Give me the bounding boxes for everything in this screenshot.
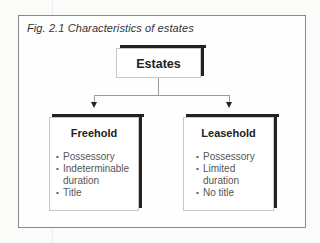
leasehold-list: •Possessory •Limitedduration •No title <box>196 151 255 199</box>
figure-title: Fig. 2.1 Characteristics of estates <box>27 22 194 34</box>
freehold-node: Freehold •Possessory •Indeterminabledura… <box>49 117 139 211</box>
bullet-icon: • <box>196 163 199 175</box>
node-shadow-top <box>186 114 279 117</box>
list-item: •Possessory <box>56 151 129 163</box>
node-shadow-top <box>120 45 206 48</box>
bullet-icon: • <box>196 187 199 199</box>
list-item: •No title <box>196 187 255 199</box>
list-item: •Indeterminableduration <box>56 163 129 187</box>
list-item: •Possessory <box>196 151 255 163</box>
connector-stem <box>158 78 159 95</box>
arrow-down-icon <box>226 102 232 108</box>
estates-label: Estates <box>117 57 200 71</box>
estates-node: Estates <box>116 48 201 78</box>
list-item: •Limitedduration <box>196 163 255 187</box>
arrow-down-icon <box>91 102 97 108</box>
connector-bar <box>94 95 230 96</box>
bullet-icon: • <box>56 163 59 175</box>
leasehold-node: Leasehold •Possessory •Limitedduration •… <box>183 117 274 211</box>
freehold-title: Freehold <box>50 127 138 139</box>
node-shadow-right <box>201 45 204 76</box>
bullet-icon: • <box>56 187 59 199</box>
freehold-list: •Possessory •Indeterminableduration •Tit… <box>56 151 129 199</box>
list-item: •Title <box>56 187 129 199</box>
node-shadow-top <box>52 114 144 117</box>
leasehold-title: Leasehold <box>184 127 273 139</box>
bullet-icon: • <box>56 151 59 163</box>
node-shadow-right <box>274 114 277 208</box>
node-shadow-right <box>139 114 142 208</box>
bullet-icon: • <box>196 151 199 163</box>
